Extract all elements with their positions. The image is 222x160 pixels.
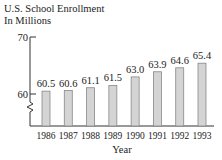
x-tick-label: 1990	[126, 131, 145, 141]
value-label: 60.5	[37, 78, 55, 89]
x-tick-label: 1987	[59, 131, 78, 141]
x-tick-label: 1992	[170, 131, 189, 141]
y-tick-label: 60	[18, 89, 29, 100]
x-tick-label: 1991	[148, 131, 167, 141]
x-tick-label: 1989	[103, 131, 122, 141]
value-label: 63.9	[148, 59, 166, 70]
bar-1993	[198, 63, 206, 126]
x-axis-label: Year	[112, 144, 132, 155]
x-tick-label: 1993	[193, 131, 212, 141]
bar-1989	[109, 85, 117, 126]
bar-1986	[42, 91, 50, 126]
value-label: 64.6	[171, 55, 189, 66]
bar-1992	[176, 68, 184, 126]
bar-chart: 6070Year 60.5198660.6198761.1198861.5198…	[0, 0, 222, 160]
value-label: 61.5	[104, 72, 122, 83]
y-tick-label: 70	[18, 32, 29, 43]
bar-1987	[64, 91, 72, 126]
bar-1990	[131, 77, 139, 126]
bars: 60.5198660.6198761.1198861.5198963.01990…	[37, 50, 212, 141]
value-label: 63.0	[126, 64, 144, 75]
bar-1991	[153, 72, 161, 126]
bar-1988	[87, 88, 95, 126]
value-label: 60.6	[59, 78, 77, 89]
value-label: 65.4	[193, 50, 212, 61]
x-tick-label: 1988	[81, 131, 100, 141]
x-tick-label: 1986	[37, 131, 56, 141]
value-label: 61.1	[81, 75, 99, 86]
axis-break-icon	[27, 102, 33, 112]
